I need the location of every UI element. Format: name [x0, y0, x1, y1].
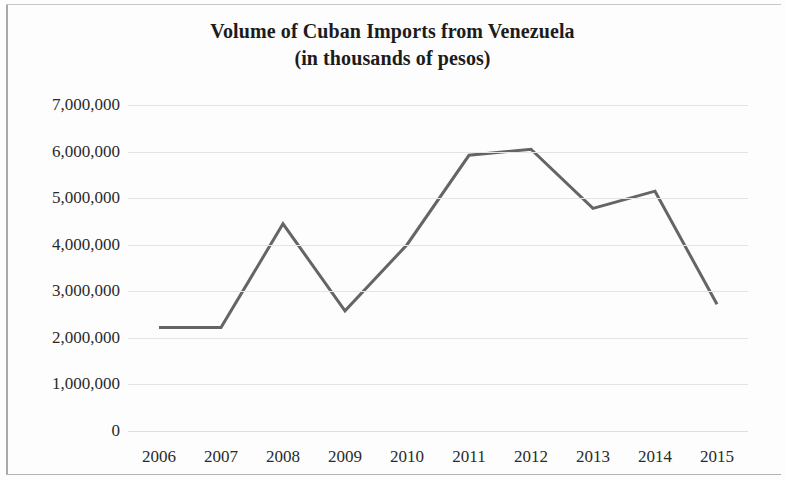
y-axis-tick-label: 1,000,000: [8, 375, 120, 392]
gridline: [128, 384, 748, 385]
y-axis-tick-label: 4,000,000: [8, 236, 120, 253]
gridline: [128, 105, 748, 106]
y-axis-tick-label: 3,000,000: [8, 282, 120, 299]
y-axis-tick-label: 6,000,000: [8, 143, 120, 160]
gridline: [128, 338, 748, 339]
x-axis-tick-label: 2015: [681, 447, 753, 467]
y-axis-tick-label: 0: [8, 422, 120, 439]
gridline: [128, 152, 748, 153]
gridline: [128, 198, 748, 199]
chart-title-main: Volume of Cuban Imports from Venezuela: [210, 20, 574, 42]
y-axis-tick-label: 2,000,000: [8, 329, 120, 346]
y-axis: 01,000,0002,000,0003,000,0004,000,0005,0…: [8, 0, 120, 481]
page-border-bottom: [6, 474, 781, 475]
data-line-chart: [128, 105, 748, 431]
gridline: [128, 431, 748, 432]
plot-area: [128, 105, 748, 431]
chart-figure: Volume of Cuban Imports from Venezuela (…: [0, 0, 785, 481]
x-axis: 2006200720082009201020112012201320142015: [0, 447, 785, 471]
page-border-top: [6, 4, 781, 5]
y-axis-tick-label: 5,000,000: [8, 189, 120, 206]
data-series-line: [159, 149, 717, 327]
y-axis-tick-label: 7,000,000: [8, 96, 120, 113]
gridline: [128, 291, 748, 292]
gridline: [128, 245, 748, 246]
